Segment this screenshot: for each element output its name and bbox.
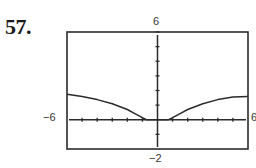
graph-plot — [0, 0, 256, 168]
axes — [69, 32, 246, 147]
